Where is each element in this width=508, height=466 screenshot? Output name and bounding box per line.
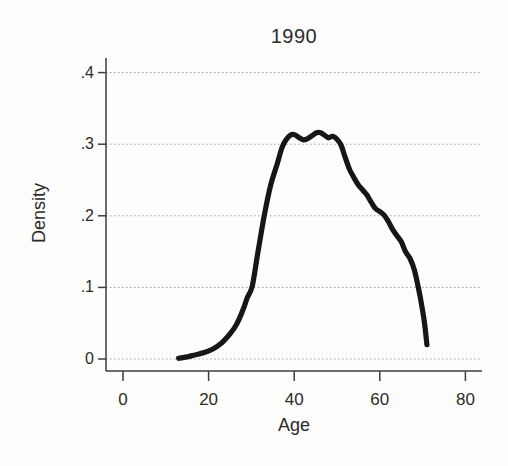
x-tick-label: 0 [99,390,147,410]
density-figure-1990: 1990 Density Age 0.1.2.3.4020406080 [0,0,508,466]
y-tick-label: .4 [54,63,94,83]
x-tick-label: 60 [356,390,404,410]
density-curve [179,132,427,358]
y-tick-label: 0 [54,349,94,369]
y-tick-label: .2 [54,206,94,226]
x-tick-label: 80 [441,390,489,410]
y-tick-label: .3 [54,134,94,154]
axis-ticks [98,73,465,381]
y-tick-label: .1 [54,277,94,297]
x-tick-label: 20 [185,390,233,410]
x-tick-label: 40 [270,390,318,410]
